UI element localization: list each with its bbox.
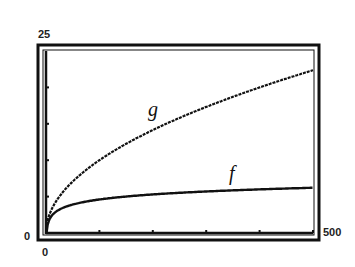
- x-max-label: 500: [323, 226, 341, 238]
- function-graph: 25 0 0 500 g f: [0, 0, 355, 267]
- y-max-label: 25: [38, 28, 50, 40]
- curve-g: [46, 70, 313, 233]
- curve-f: [47, 188, 313, 233]
- curve-label-f: f: [229, 162, 237, 185]
- curve-label-g: g: [148, 98, 158, 121]
- y-min-label: 0: [24, 230, 30, 242]
- outer-frame: [38, 45, 319, 240]
- axis-ticks: [46, 87, 313, 233]
- x-min-label: 0: [42, 246, 48, 258]
- inner-frame: [43, 50, 314, 235]
